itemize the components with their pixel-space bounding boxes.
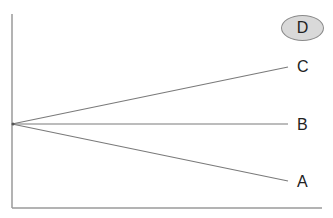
line-c-label: C [297, 59, 309, 75]
line-a [12, 124, 288, 181]
line-c [12, 67, 288, 124]
diagram: C B A D [0, 0, 333, 218]
line-a-label: A [297, 174, 308, 190]
line-b-label: B [297, 117, 308, 133]
d-badge: D [281, 15, 324, 41]
d-badge-label: D [297, 19, 309, 37]
origin-point [12, 123, 15, 126]
